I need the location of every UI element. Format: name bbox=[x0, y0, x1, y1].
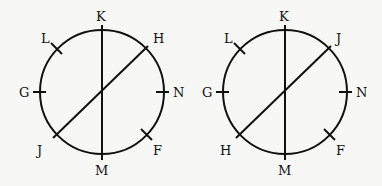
right-circle-diagram bbox=[216, 25, 352, 160]
left-label-lower-right: F bbox=[153, 143, 162, 158]
left-tick-l bbox=[51, 43, 62, 54]
left-label-bottom: M bbox=[95, 163, 108, 178]
left-circle-diagram bbox=[33, 25, 169, 160]
right-label-right: N bbox=[356, 85, 367, 100]
left-label-upper-right: H bbox=[153, 31, 164, 46]
right-label-left: G bbox=[202, 85, 212, 100]
left-label-top: K bbox=[96, 9, 106, 24]
left-label-upper-left: L bbox=[41, 31, 50, 46]
right-label-upper-left: L bbox=[224, 31, 233, 46]
left-label-right: N bbox=[173, 85, 184, 100]
left-chord-h-j bbox=[53, 46, 148, 138]
circle-diagrams: K L H G N J F M K L J G N H F M bbox=[0, 0, 382, 186]
right-chord-j-h bbox=[236, 46, 331, 138]
right-label-top: K bbox=[279, 9, 289, 24]
left-label-lower-left: J bbox=[35, 143, 42, 158]
right-tick-l bbox=[234, 43, 245, 54]
right-label-lower-right: F bbox=[336, 143, 345, 158]
left-label-left: G bbox=[19, 85, 29, 100]
right-label-bottom: M bbox=[278, 163, 291, 178]
right-label-lower-left: H bbox=[220, 143, 231, 158]
right-label-upper-right: J bbox=[334, 31, 341, 46]
